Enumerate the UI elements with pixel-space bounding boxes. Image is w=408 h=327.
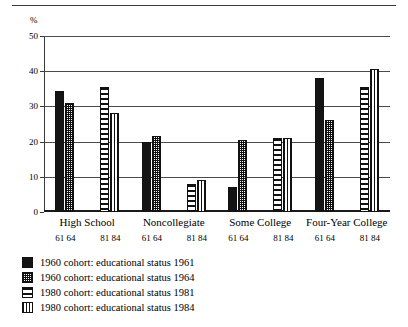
bar <box>55 91 64 212</box>
bar <box>65 103 74 212</box>
legend-item-label: 1980 cohort: educational status 1981 <box>40 287 195 298</box>
y-axis-tick-label: 10 <box>18 173 38 182</box>
category-year-sublabel: 81 84 <box>95 233 125 243</box>
bar <box>360 87 369 212</box>
bar <box>370 69 379 212</box>
legend-item-label: 1980 cohort: educational status 1984 <box>40 302 195 313</box>
category-year-sublabel: 61 64 <box>223 233 253 243</box>
category-label: Four-Year College <box>304 216 391 228</box>
y-axis-tick-label: 20 <box>18 138 38 147</box>
category-label: High School <box>44 216 131 228</box>
bar <box>273 138 282 212</box>
chart-figure: % 01020304050 High School61 6481 84Nonco… <box>0 0 408 250</box>
legend-swatch-solid-icon <box>22 257 33 268</box>
y-axis-unit-label: % <box>30 16 38 25</box>
bar <box>228 187 237 212</box>
bar <box>110 113 119 212</box>
bar <box>283 138 292 212</box>
y-axis-tick-mark <box>40 212 44 213</box>
legend-swatch-horizontal-stripe-icon <box>22 287 33 298</box>
legend-swatch-vertical-stripe-icon <box>22 302 33 313</box>
legend-swatch-stipple-icon <box>22 272 33 283</box>
legend-item-label: 1960 cohort: educational status 1961 <box>40 257 195 268</box>
bar <box>142 142 151 212</box>
category-year-sublabel: 81 84 <box>355 233 385 243</box>
category-year-sublabel: 81 84 <box>182 233 212 243</box>
category-year-sublabel: 81 84 <box>268 233 298 243</box>
bar <box>100 87 109 212</box>
legend-item: 1980 cohort: educational status 1984 <box>22 300 322 315</box>
legend-item-label: 1960 cohort: educational status 1964 <box>40 272 195 283</box>
category-label: Noncollegiate <box>131 216 218 228</box>
legend-item: 1960 cohort: educational status 1964 <box>22 270 322 285</box>
plot-area: 01020304050 <box>44 36 390 212</box>
bar <box>238 140 247 212</box>
bar <box>197 180 206 212</box>
y-axis-tick-label: 50 <box>18 32 38 41</box>
bar <box>187 184 196 212</box>
category-year-sublabel: 61 64 <box>310 233 340 243</box>
bar <box>152 136 161 212</box>
bars-group <box>44 36 390 212</box>
y-axis-tick-label: 30 <box>18 102 38 111</box>
category-label: Some College <box>217 216 304 228</box>
y-axis-tick-label: 40 <box>18 67 38 76</box>
category-year-sublabel: 61 64 <box>50 233 80 243</box>
y-axis-tick-label: 0 <box>18 208 38 217</box>
bar <box>325 120 334 212</box>
legend-item: 1960 cohort: educational status 1961 <box>22 255 322 270</box>
category-year-sublabel: 61 64 <box>137 233 167 243</box>
chart-legend: 1960 cohort: educational status 1961 196… <box>22 255 322 315</box>
legend-item: 1980 cohort: educational status 1981 <box>22 285 322 300</box>
bar <box>315 78 324 212</box>
